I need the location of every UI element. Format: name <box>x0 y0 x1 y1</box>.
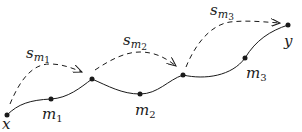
label-y: y <box>283 32 293 50</box>
shortcut-arrow-s-m2 <box>95 52 176 70</box>
label-m3: m3 <box>246 64 267 83</box>
shortcut-arrow-s-m1 <box>10 64 82 104</box>
label-m1: m1 <box>42 105 63 124</box>
shortcut-arrow-s-m3 <box>186 21 280 67</box>
label-s-m3: sm3 <box>210 1 234 22</box>
label-x: x <box>2 115 11 132</box>
label-s-m2: sm2 <box>123 31 147 52</box>
node-a <box>90 77 95 82</box>
node-b <box>181 73 186 78</box>
node-y <box>286 23 291 28</box>
node-m1 <box>49 97 54 102</box>
node-m3 <box>243 56 248 61</box>
label-s-m1: sm1 <box>26 44 50 65</box>
path-diagram: x y m1 m2 m3 sm1 sm2 sm3 <box>0 0 302 132</box>
label-m2: m2 <box>135 101 156 120</box>
node-m2 <box>138 92 143 97</box>
